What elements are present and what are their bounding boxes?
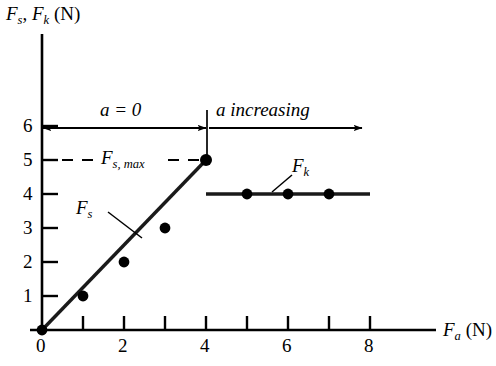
x-axis-unit: (N)	[466, 319, 492, 340]
y-tick-label-5: 5	[23, 150, 33, 169]
fs-max-symbol: F	[101, 147, 113, 168]
chart-canvas	[0, 0, 496, 366]
x-axis-fa-symbol: F	[443, 319, 455, 340]
x-tick-label-2: 2	[118, 336, 128, 355]
y-tick-label-1: 1	[23, 286, 33, 305]
fk-curve-symbol: F	[292, 155, 304, 176]
y-axis-title: Fs, Fk (N)	[6, 4, 80, 26]
fk-curve-label: Fk	[292, 156, 309, 178]
region-label-a-zero: a = 0	[100, 100, 141, 119]
x-axis-fa-subscript: a	[455, 329, 461, 343]
y-axis-unit: (N)	[54, 3, 80, 24]
series-fs	[37, 154, 212, 335]
fs-max-label: Fs, max	[101, 148, 145, 170]
x-tick-label-0: 0	[36, 336, 46, 355]
fs-label-leader	[108, 212, 142, 238]
x-axis-ticks	[83, 316, 370, 330]
y-tick-label-2: 2	[23, 252, 33, 271]
x-axis-title: Fa (N)	[443, 320, 492, 342]
x-tick-label-6: 6	[282, 336, 292, 355]
series-fk	[206, 189, 370, 200]
y-axis-comma: ,	[23, 3, 28, 24]
y-tick-label-6: 6	[23, 116, 33, 135]
y-axis-fs-symbol: F	[6, 3, 18, 24]
fs-curve-symbol: F	[76, 197, 88, 218]
region-label-a-increasing: a increasing	[216, 100, 310, 119]
fs-curve-label: Fs	[76, 198, 93, 220]
x-tick-label-4: 4	[200, 336, 210, 355]
axis-lines	[30, 34, 436, 332]
y-axis-fk-subscript: k	[44, 13, 50, 27]
y-tick-label-4: 4	[23, 184, 33, 203]
x-tick-label-8: 8	[364, 336, 374, 355]
y-axis-fk-symbol: F	[32, 3, 44, 24]
friction-force-chart: Fs, Fk (N) Fa (N) 1 2 3 4 5 6 0 2 4 6 8 …	[0, 0, 496, 366]
fk-curve-subscript: k	[304, 165, 310, 179]
y-tick-label-3: 3	[23, 218, 33, 237]
fs-max-subscript: s, max	[113, 157, 145, 171]
y-axis-ticks	[42, 126, 58, 296]
fs-curve-subscript: s	[88, 207, 93, 221]
